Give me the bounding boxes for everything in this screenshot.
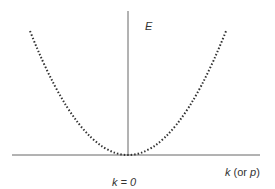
dispersion-diagram [0, 0, 275, 189]
x-axis-label: k (or p) [225, 166, 260, 178]
y-axis-label: E [145, 20, 152, 32]
origin-label: k = 0 [112, 176, 136, 188]
x-axis-paren-close: ) [256, 166, 260, 178]
x-axis-paren-open: (or [231, 166, 251, 178]
